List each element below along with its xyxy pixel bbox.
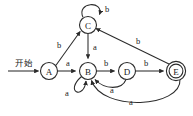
edge-a-to-b-label: a (66, 58, 70, 68)
edge-c-to-b: a (88, 34, 97, 59)
edge-e-to-c-label: b (136, 36, 140, 46)
edge-c-self-loop: b (82, 4, 109, 17)
node-e-label: E (173, 67, 179, 77)
fsm-canvas: 开始 a b b a a b (0, 0, 193, 116)
edge-c-self-loop-path (82, 5, 100, 18)
edge-b-to-d-label: b (104, 58, 108, 68)
edge-a-to-c-label: b (57, 40, 61, 50)
node-a[interactable]: A (41, 63, 58, 80)
node-e-accepting[interactable]: E (166, 61, 185, 80)
edge-b-self-loop-label: a (65, 88, 69, 98)
start-marker: 开始 (8, 58, 39, 71)
edge-c-self-loop-label: b (105, 4, 109, 14)
fsm-diagram: 开始 a b b a a b (0, 0, 193, 116)
edge-b-self-loop: a (65, 77, 86, 99)
start-label: 开始 (15, 58, 33, 68)
node-b-label: B (85, 67, 91, 77)
node-d-label: D (124, 67, 131, 77)
edge-d-to-e: b (136, 58, 164, 71)
node-d[interactable]: D (119, 63, 136, 80)
edge-d-to-b-label: a (110, 85, 114, 95)
node-b[interactable]: B (80, 63, 97, 80)
edge-e-to-b-label: a (129, 97, 133, 107)
edge-e-to-b: a (92, 79, 181, 107)
edge-b-to-d: b (97, 58, 115, 71)
edge-d-to-e-label: b (144, 58, 148, 68)
edge-d-to-b: a (95, 80, 126, 96)
node-c-label: C (85, 21, 91, 31)
edge-c-to-b-label: a (93, 42, 97, 52)
node-a-label: A (46, 67, 53, 77)
edge-e-to-b-path (92, 79, 181, 102)
node-c[interactable]: C (80, 17, 97, 34)
